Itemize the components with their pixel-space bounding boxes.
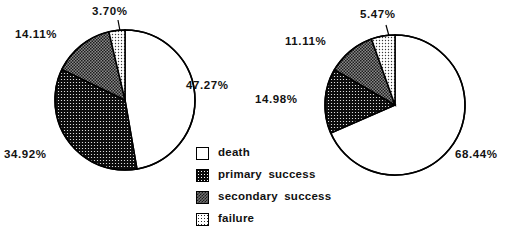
legend-label-failure: failure xyxy=(218,213,254,225)
legend-label-death: death xyxy=(218,147,250,159)
left-label-primary-success: 34.92% xyxy=(4,149,47,161)
pie-chart-figure: 47.27% 34.92% 14.11% 3.70% 68.44% 14.98%… xyxy=(0,0,521,238)
legend-item-death[interactable]: death xyxy=(196,142,366,164)
legend-swatch-secondary-success-icon xyxy=(196,191,209,204)
legend-swatch-primary-success-icon xyxy=(196,169,209,182)
legend-item-secondary-success[interactable]: secondary success xyxy=(196,186,366,208)
legend-label-secondary-success: secondary success xyxy=(218,191,331,203)
left-pie-leaders xyxy=(118,20,120,31)
left-label-secondary-success: 14.11% xyxy=(15,29,57,41)
left-label-death: 47.27% xyxy=(186,80,229,92)
right-label-primary-success: 14.98% xyxy=(255,94,298,106)
left-slice-death[interactable] xyxy=(125,30,195,169)
legend-item-failure[interactable]: failure xyxy=(196,208,366,230)
right-label-death: 68.44% xyxy=(455,149,498,161)
left-pie-chart xyxy=(55,30,195,170)
legend-label-primary-success: primary success xyxy=(218,169,316,181)
legend-swatch-failure-icon xyxy=(196,213,209,226)
left-label-failure: 3.70% xyxy=(92,6,128,18)
right-pie-leaders xyxy=(386,25,389,36)
right-label-secondary-success: 11.11% xyxy=(285,36,326,48)
chart-legend: death primary success secondary success … xyxy=(196,142,366,230)
legend-item-primary-success[interactable]: primary success xyxy=(196,164,366,186)
right-label-failure: 5.47% xyxy=(360,9,396,21)
legend-swatch-death-icon xyxy=(196,147,209,160)
